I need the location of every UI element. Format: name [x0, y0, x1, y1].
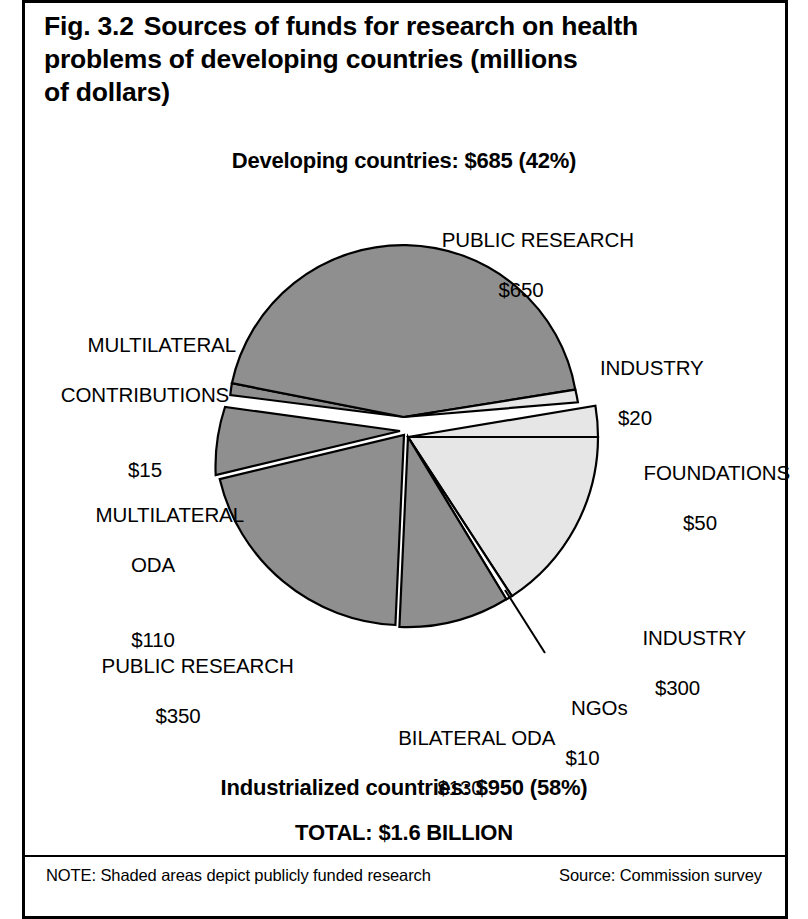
figure-title-line1: Sources of funds for research on health — [144, 11, 638, 41]
label-bottom-foundations-name: FOUNDATIONS — [644, 461, 791, 484]
note-separator-rule — [22, 855, 788, 857]
label-bottom-ngos-name: NGOs — [571, 696, 628, 719]
label-top-industry-value: $20 — [555, 405, 715, 430]
figure-page: Fig. 3.2Sources of funds for research on… — [0, 0, 808, 919]
label-bottom-multilateral-oda: MULTILATERAL ODA $110 — [48, 477, 258, 702]
footer-source: Source: Commission survey — [559, 866, 762, 885]
label-bottom-foundations-value: $50 — [600, 510, 800, 535]
label-bottom-foundations: FOUNDATIONS $50 — [600, 435, 800, 585]
footer-note: NOTE: Shaded areas depict publicly funde… — [46, 866, 431, 885]
ngos-leader-line — [505, 590, 545, 653]
developing-countries-subtitle: Developing countries: $685 (42%) — [0, 148, 808, 174]
label-top-public-research-name: PUBLIC RESEARCH — [442, 228, 634, 251]
pie-bottom-industrialized-countries — [215, 406, 598, 627]
label-bottom-multilateral-oda-value: $110 — [48, 627, 258, 652]
label-bottom-public-research-value: $350 — [68, 703, 288, 728]
figure-footer: NOTE: Shaded areas depict publicly funde… — [0, 866, 808, 906]
label-top-public-research-value: $650 — [396, 277, 646, 302]
label-bottom-multilateral-oda-name1: MULTILATERAL — [96, 503, 244, 526]
figure-title-line3: of dollars) — [44, 77, 170, 107]
border-top-rule — [22, 0, 788, 3]
industrialized-countries-subtitle: Industrialized countries: $950 (58%) — [0, 775, 808, 801]
label-top-industry-name: INDUSTRY — [600, 356, 704, 379]
label-bottom-multilateral-oda-name2: ODA — [48, 552, 258, 577]
pie-chart-area: PUBLIC RESEARCH $650 MULTILATERAL CONTRI… — [0, 185, 808, 765]
figure-title: Fig. 3.2Sources of funds for research on… — [44, 10, 754, 109]
label-top-multilateral-contributions-name2: CONTRIBUTIONS — [35, 382, 255, 407]
total-label: TOTAL: $1.6 BILLION — [0, 820, 808, 846]
label-bottom-industry-name: INDUSTRY — [642, 626, 746, 649]
label-bottom-bilateral-oda-name: BILATERAL ODA — [398, 726, 555, 749]
figure-title-line2: problems of developing countries (millio… — [44, 44, 577, 74]
figure-number: Fig. 3.2 — [44, 11, 134, 41]
label-top-multilateral-contributions-name1: MULTILATERAL — [88, 333, 236, 356]
